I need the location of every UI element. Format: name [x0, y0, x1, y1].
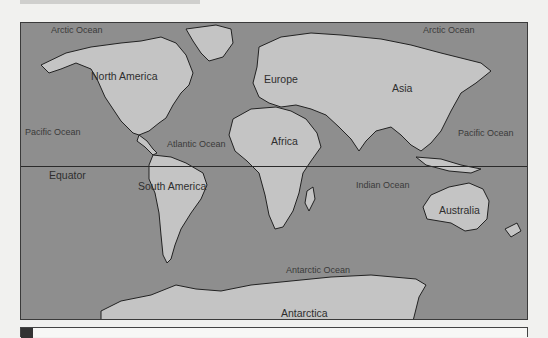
- equator-line: [21, 166, 527, 167]
- landmass-indonesia: [416, 157, 481, 173]
- ocean-label-pacific-right: Pacific Ocean: [458, 128, 514, 138]
- caption-box: [20, 327, 528, 337]
- landmass-africa: [229, 107, 321, 229]
- landmass-new-zealand: [505, 223, 521, 237]
- landmass-central-america: [137, 135, 157, 155]
- landmass-greenland: [186, 25, 233, 61]
- continent-label-north-america: North America: [91, 70, 158, 82]
- landmass-madagascar: [305, 187, 315, 211]
- ocean-label-arctic-right: Arctic Ocean: [423, 25, 475, 35]
- ocean-label-pacific-left: Pacific Ocean: [25, 127, 81, 137]
- landmass-south-america: [149, 155, 207, 263]
- ocean-label-atlantic: Atlantic Ocean: [167, 139, 226, 149]
- continent-label-africa: Africa: [271, 135, 298, 147]
- ocean-label-arctic-left: Arctic Ocean: [51, 25, 103, 35]
- page-header-strip: [20, 0, 200, 4]
- landmass-antarctica: [101, 275, 426, 320]
- continent-label-antarctica: Antarctica: [281, 307, 328, 319]
- world-map: Arctic Ocean Arctic Ocean Pacific Ocean …: [20, 22, 528, 320]
- equator-label: Equator: [49, 169, 86, 181]
- ocean-label-indian: Indian Ocean: [356, 180, 410, 190]
- ocean-label-antarctic: Antarctic Ocean: [286, 265, 350, 275]
- continent-label-europe: Europe: [264, 73, 298, 85]
- map-landmasses: [21, 23, 528, 320]
- continent-label-asia: Asia: [392, 82, 412, 94]
- landmass-north-america: [41, 37, 193, 135]
- caption-marker: [21, 328, 33, 338]
- continent-label-australia: Australia: [439, 204, 480, 216]
- continent-label-south-america: South America: [138, 180, 206, 192]
